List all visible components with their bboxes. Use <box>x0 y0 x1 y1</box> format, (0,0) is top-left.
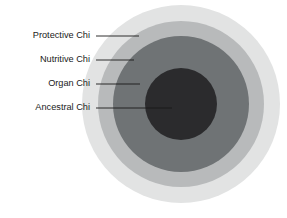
label-organ-chi: Organ Chi <box>48 78 90 88</box>
ring-ancestral-chi <box>145 68 217 140</box>
label-nutritive-chi: Nutritive Chi <box>40 54 90 64</box>
chi-layers-figure: Protective Chi Nutritive Chi Organ Chi A… <box>0 0 287 218</box>
label-ancestral-chi: Ancestral Chi <box>35 102 90 112</box>
concentric-rings-diagram: Protective Chi Nutritive Chi Organ Chi A… <box>0 0 287 218</box>
label-protective-chi: Protective Chi <box>33 30 90 40</box>
